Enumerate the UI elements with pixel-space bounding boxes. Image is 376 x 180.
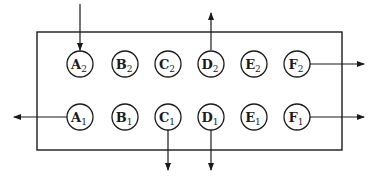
node-C1: C1	[155, 104, 181, 130]
block-diagram: A2B2C2D2E2F2A1B1C1D1E1F1	[0, 0, 376, 180]
diagram-svg: A2B2C2D2E2F2A1B1C1D1E1F1	[0, 0, 376, 180]
node-C2: C2	[155, 51, 181, 77]
node-B1: B1	[112, 104, 138, 130]
node-A2: A2	[67, 51, 93, 77]
node-B2: B2	[112, 51, 138, 77]
container-box	[37, 32, 342, 150]
node-D2: D2	[198, 51, 224, 77]
node-A1: A1	[67, 104, 93, 130]
arrows-layer	[14, 4, 364, 170]
node-E1: E1	[241, 104, 267, 130]
node-F2: F2	[284, 51, 310, 77]
node-D1: D1	[198, 104, 224, 130]
node-F1: F1	[284, 104, 310, 130]
node-E2: E2	[241, 51, 267, 77]
nodes-layer: A2B2C2D2E2F2A1B1C1D1E1F1	[67, 51, 310, 130]
